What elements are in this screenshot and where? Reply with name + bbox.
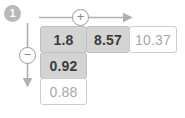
step-number-badge: 1 <box>4 5 21 22</box>
minus-operator-icon: − <box>19 47 36 64</box>
cell-column-left-1[interactable]: 0.92 <box>40 52 87 79</box>
plus-operator-icon: + <box>72 9 89 26</box>
cell-row-top-2[interactable]: 8.57 <box>86 26 130 53</box>
worksheet-canvas: 1 + − 1.8 8.57 10.37 0.92 0.88 <box>0 0 185 118</box>
cell-column-left-result[interactable]: 0.88 <box>40 78 87 105</box>
cell-row-top-sum[interactable]: 10.37 <box>129 26 177 53</box>
cell-row-top-1[interactable]: 1.8 <box>40 26 87 53</box>
